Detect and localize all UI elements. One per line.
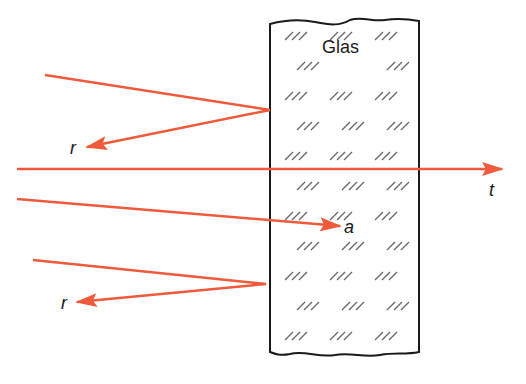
light-rays: [17, 75, 502, 302]
label-reflected-top: r: [70, 138, 77, 158]
label-transmitted: t: [489, 180, 495, 200]
label-reflected-bottom: r: [61, 293, 68, 313]
glass-pane: [270, 19, 419, 356]
ray-reflected-bottom: [33, 260, 266, 302]
glass-optics-diagram: Glas r t a r: [0, 0, 526, 384]
label-absorbed: a: [344, 217, 354, 237]
glass-label: Glas: [322, 37, 359, 57]
ray-reflected-top: [45, 75, 270, 147]
